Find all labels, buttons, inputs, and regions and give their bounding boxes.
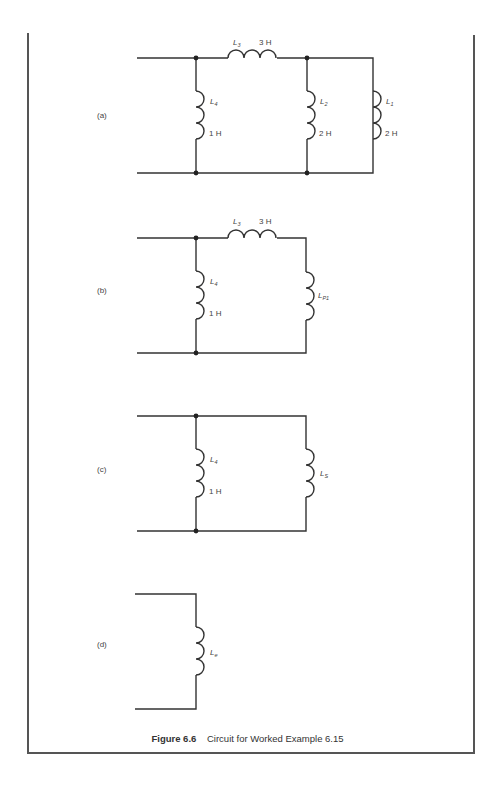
label-l2: L2 <box>320 97 328 107</box>
inductor-l4-icon <box>196 449 204 497</box>
node-dot <box>194 236 199 241</box>
part-label-c: (c) <box>97 465 107 474</box>
value-l4: 1 H <box>209 129 222 138</box>
inductor-l4-icon <box>196 91 204 139</box>
inductor-lp1-icon <box>306 272 314 320</box>
value-l4: 1 H <box>209 487 222 496</box>
value-l1: 2 H <box>385 129 398 138</box>
wire-d <box>135 594 196 709</box>
label-l4: L4 <box>210 277 218 287</box>
label-lp1: LP1 <box>318 291 329 301</box>
wire-c <box>137 416 306 531</box>
node-dot <box>194 351 199 356</box>
inductor-l1-icon <box>373 91 381 139</box>
label-l3: L3 <box>233 38 241 48</box>
wire-a <box>137 58 373 173</box>
node-dot <box>305 171 310 176</box>
value-l3: 3 H <box>259 38 272 47</box>
figure-caption: Figure 6.6 Circuit for Worked Example 6.… <box>0 733 495 744</box>
circuit-d: (d) Le <box>97 594 218 709</box>
figure-number: Figure 6.6 <box>151 733 196 744</box>
circuit-b: (b) L3 3 H L4 1 H LP1 <box>97 217 329 355</box>
inductor-l3-icon <box>228 230 276 238</box>
label-l3: L3 <box>233 217 241 227</box>
part-label-d: (d) <box>97 640 107 649</box>
node-dot <box>194 529 199 534</box>
figure-caption-text: Circuit for Worked Example 6.15 <box>207 733 344 744</box>
circuit-a: (a) L3 3 H L4 1 H L2 2 H L1 2 H <box>97 38 398 175</box>
node-dot <box>194 56 199 61</box>
label-l4: L4 <box>210 97 218 107</box>
value-l3: 3 H <box>259 217 272 226</box>
node-dot <box>194 171 199 176</box>
part-label-b: (b) <box>97 286 107 295</box>
value-l4: 1 H <box>209 309 222 318</box>
node-dot <box>305 56 310 61</box>
circuit-diagrams: (a) L3 3 H L4 1 H L2 2 H L1 2 H (b) <box>0 0 495 794</box>
inductor-l4-icon <box>196 271 204 319</box>
node-dot <box>194 414 199 419</box>
inductor-ls-icon <box>306 449 314 497</box>
inductor-l3-icon <box>228 50 276 58</box>
label-le: Le <box>210 648 218 658</box>
label-l4: L4 <box>210 455 218 465</box>
value-l2: 2 H <box>319 129 332 138</box>
inductor-l2-icon <box>307 91 315 139</box>
inductor-le-icon <box>196 627 204 675</box>
part-label-a: (a) <box>97 111 107 120</box>
wire-b <box>137 238 306 353</box>
label-ls: LS <box>320 469 328 479</box>
label-l1: L1 <box>386 97 394 107</box>
circuit-c: (c) L4 1 H LS <box>97 414 328 534</box>
